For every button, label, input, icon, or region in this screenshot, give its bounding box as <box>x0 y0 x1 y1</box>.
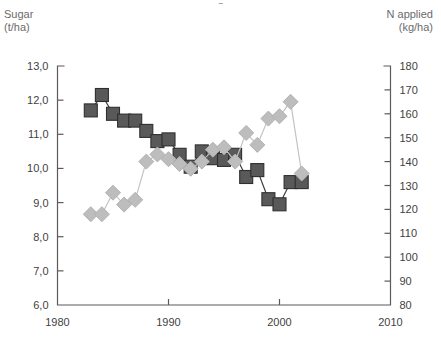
data-point-marker <box>94 207 109 222</box>
data-series-layer <box>83 89 309 222</box>
x-tick-label: 2010 <box>378 316 402 328</box>
right-tick-label: 90 <box>400 275 412 287</box>
data-point-marker <box>95 89 108 102</box>
right-tick-label: 160 <box>400 108 418 120</box>
data-point-marker <box>283 94 298 109</box>
right-tick-label: 170 <box>400 84 418 96</box>
x-axis-ticks: 1980199020002010 <box>45 299 402 328</box>
x-tick-label: 2000 <box>267 316 291 328</box>
left-tick-label: 11,0 <box>28 128 49 140</box>
left-tick-label: 6,0 <box>33 299 48 311</box>
left-tick-label: 8,0 <box>33 231 48 243</box>
right-tick-label: 180 <box>400 60 418 72</box>
data-point-marker <box>273 198 286 211</box>
chart-root: g Sugar (t/ha) N applied (kg/ha) 6,07,08… <box>0 0 441 346</box>
right-tick-label: 130 <box>400 180 418 192</box>
right-tick-label: 140 <box>400 156 418 168</box>
left-tick-label: 12,0 <box>27 94 48 106</box>
data-point-marker <box>162 133 175 146</box>
right-tick-label: 150 <box>400 132 418 144</box>
data-point-marker <box>84 104 97 117</box>
right-tick-label: 80 <box>400 299 412 311</box>
right-axis-ticks: 8090100110120130140150160170180 <box>385 60 418 311</box>
chart-svg: 6,07,08,09,010,011,012,013,0 80901001101… <box>0 0 441 346</box>
data-point-marker <box>251 164 264 177</box>
left-tick-label: 7,0 <box>33 265 48 277</box>
left-tick-label: 13,0 <box>27 60 48 72</box>
data-point-marker <box>272 109 287 124</box>
right-tick-label: 110 <box>400 227 418 239</box>
right-tick-label: 120 <box>400 203 418 215</box>
x-tick-label: 1990 <box>156 316 180 328</box>
right-tick-label: 100 <box>400 251 418 263</box>
left-tick-label: 9,0 <box>33 197 48 209</box>
plot-area: 6,07,08,09,010,011,012,013,0 80901001101… <box>0 0 441 346</box>
left-tick-label: 10,0 <box>27 162 48 174</box>
x-tick-label: 1980 <box>45 316 69 328</box>
data-point-marker <box>261 111 276 126</box>
